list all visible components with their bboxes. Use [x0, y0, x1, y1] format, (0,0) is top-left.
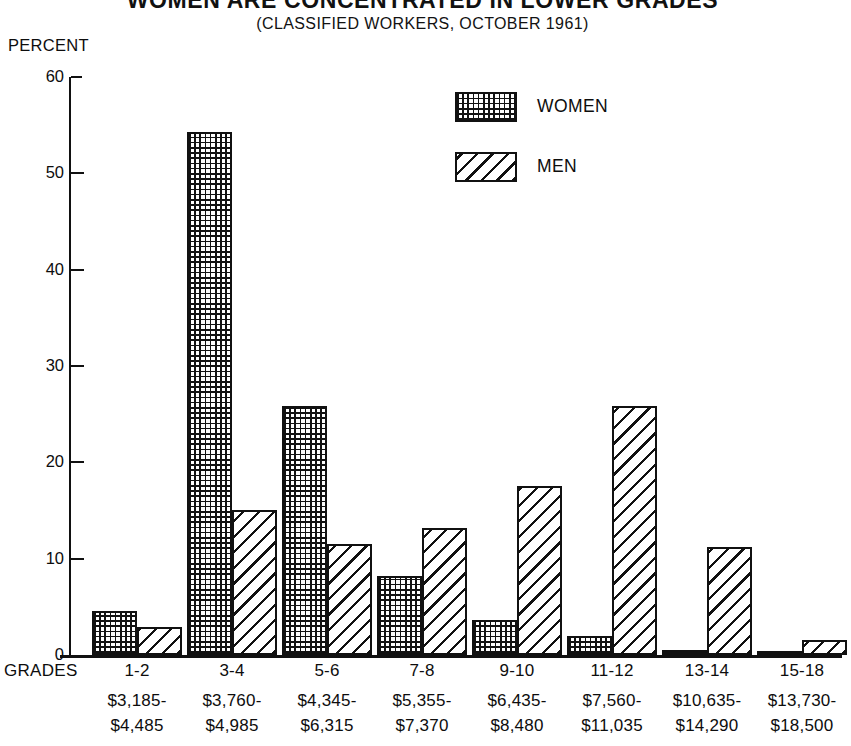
y-tick-label-20: 20 [24, 453, 64, 470]
bar-men-grade-11-12 [612, 406, 657, 655]
bar-men-grade-3-4 [232, 510, 277, 655]
bar-men-grade-7-8 [422, 528, 467, 655]
legend-swatch-women-icon [455, 92, 517, 122]
bar-women-grade-13-14 [662, 650, 707, 655]
x-axis-line [60, 655, 842, 658]
legend-label-women: WOMEN [537, 96, 608, 117]
legend-label-men: MEN [537, 156, 577, 177]
y-tick-label-50: 50 [24, 164, 64, 181]
y-tick-label-30: 30 [24, 357, 64, 374]
x-group-name-15-18: 15-18 [745, 661, 851, 681]
plot-area [70, 77, 833, 655]
bar-women-grade-11-12 [567, 636, 612, 655]
bar-women-grade-9-10 [472, 620, 517, 655]
bar-men-grade-1-2 [137, 627, 182, 655]
bar-men-grade-5-6 [327, 544, 372, 655]
chart-title: WOMEN ARE CONCENTRATED IN LOWER GRADES [0, 0, 845, 14]
x-group-salary-from-15-18: $13,730- [745, 691, 851, 711]
x-group-salary-to-15-18: $18,500 [745, 716, 851, 736]
bar-men-grade-9-10 [517, 486, 562, 655]
y-tick-label-10: 10 [24, 550, 64, 567]
y-axis-tick-labels: 0102030405060 [18, 0, 64, 746]
bar-women-grade-7-8 [377, 576, 422, 655]
bar-men-grade-15-18 [802, 640, 847, 655]
legend-swatch-men-icon [455, 152, 517, 182]
bar-women-grade-5-6 [282, 406, 327, 656]
bar-women-grade-15-18 [757, 651, 802, 655]
chart-subtitle: (CLASSIFIED WORKERS, OCTOBER 1961) [0, 15, 845, 33]
bar-women-grade-3-4 [187, 132, 232, 655]
y-tick-label-60: 60 [24, 68, 64, 85]
bar-men-grade-13-14 [707, 547, 752, 655]
y-tick-label-0: 0 [24, 646, 64, 663]
y-tick-label-40: 40 [24, 261, 64, 278]
bar-women-grade-1-2 [92, 611, 137, 655]
